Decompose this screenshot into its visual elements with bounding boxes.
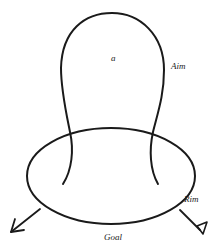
diagram-canvas bbox=[0, 0, 218, 250]
bulb-loop bbox=[61, 13, 164, 184]
base-ellipse bbox=[27, 128, 195, 224]
label-rim: Rim bbox=[184, 195, 199, 204]
right-triangle-icon bbox=[197, 222, 207, 234]
diagram: a Aim Rim Goal bbox=[0, 0, 218, 250]
label-inner-a: a bbox=[111, 54, 116, 63]
label-aim: Aim bbox=[171, 62, 186, 71]
label-goal: Goal bbox=[104, 233, 122, 242]
